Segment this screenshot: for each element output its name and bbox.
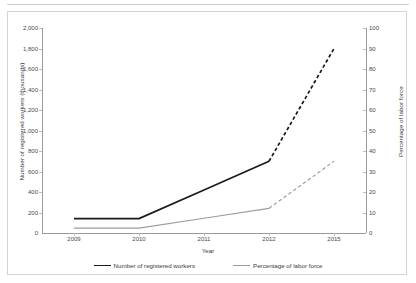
legend-label-registered-workers: Number of registered workers: [114, 262, 196, 269]
legend-line-swatch-dark-icon: [94, 265, 111, 266]
legend-item-labor-force-pct: Percentage of labor force: [233, 262, 322, 269]
legend-item-registered-workers: Number of registered workers: [94, 262, 196, 269]
chart-legend: Number of registered workers Percentage …: [0, 259, 416, 271]
series-line-dashed-0: [269, 49, 334, 162]
series-plot-layer: [0, 0, 416, 283]
series-line-solid-0: [74, 161, 269, 218]
chart-canvas: Number of registered workers (thousands)…: [0, 0, 416, 283]
legend-label-labor-force-pct: Percentage of labor force: [253, 262, 322, 269]
legend-line-swatch-gray-icon: [233, 265, 250, 266]
series-line-dashed-1: [269, 161, 334, 208]
